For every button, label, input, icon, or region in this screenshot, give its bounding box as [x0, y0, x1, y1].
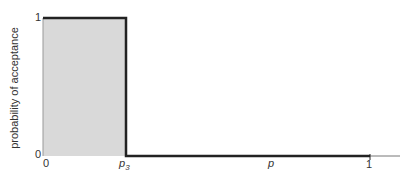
- p3-subscript: 3: [125, 163, 129, 172]
- x-tick-p3-label: p3: [119, 157, 130, 172]
- x-axis-label: p: [268, 157, 274, 169]
- chart-plot: [0, 0, 414, 175]
- y-axis-label: probability of acceptance: [8, 27, 20, 149]
- y-tick-zero: 0: [35, 148, 41, 160]
- acceptance-region: [43, 18, 126, 156]
- x-tick-one-label: 1: [366, 158, 372, 170]
- y-tick-one: 1: [35, 11, 41, 23]
- x-tick-zero-label: 0: [43, 157, 49, 169]
